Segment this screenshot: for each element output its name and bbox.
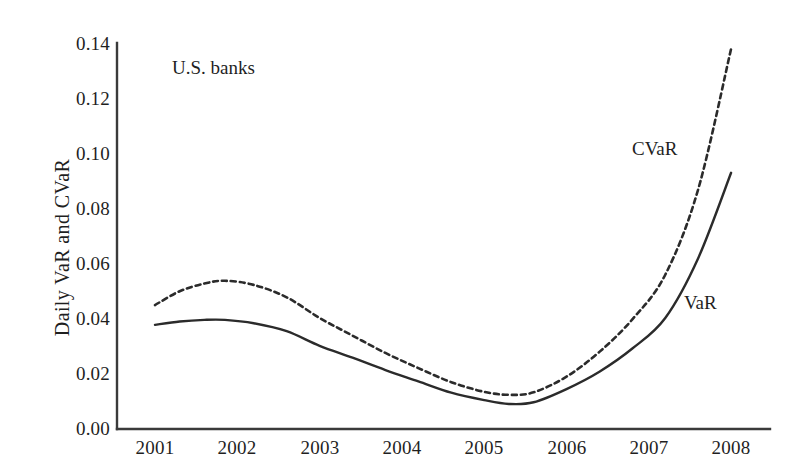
series-line-var: [155, 173, 731, 404]
y-tick-label: 0.02: [48, 363, 110, 385]
panel-annotation: U.S. banks: [172, 57, 255, 79]
y-axis-title: Daily VaR and CVaR: [51, 88, 74, 408]
series-line-cvar: [155, 49, 731, 395]
y-tick-label: 0.04: [48, 308, 110, 330]
chart-figure: Daily VaR and CVaR 0.00 0.02 0.04 0.06 0…: [0, 0, 797, 476]
y-tick-label: 0.12: [48, 88, 110, 110]
x-tick-label: 2005: [465, 437, 504, 459]
x-tick-label: 2001: [136, 437, 175, 459]
chart-plot-area: [0, 0, 797, 476]
y-tick-label: 0.14: [48, 33, 110, 55]
series-label-cvar: CVaR: [632, 138, 677, 160]
x-tick-label: 2007: [630, 437, 669, 459]
y-tick-label: 0.10: [48, 143, 110, 165]
series-label-var: VaR: [684, 292, 717, 314]
x-tick-label: 2008: [712, 437, 751, 459]
x-tick-label: 2004: [383, 437, 422, 459]
x-tick-label: 2002: [218, 437, 257, 459]
x-tick-label: 2006: [548, 437, 587, 459]
series-group: [155, 49, 731, 404]
y-tick-label: 0.00: [48, 418, 110, 440]
y-tick-label: 0.08: [48, 198, 110, 220]
y-tick-label: 0.06: [48, 253, 110, 275]
x-tick-label: 2003: [301, 437, 340, 459]
